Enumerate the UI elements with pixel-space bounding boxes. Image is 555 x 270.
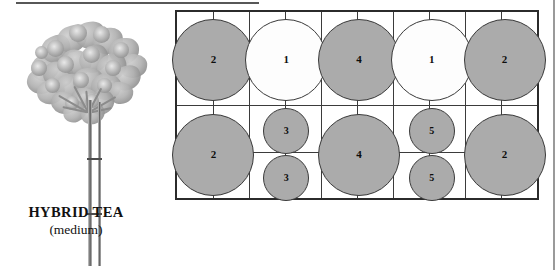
plant-circle-2: 2: [464, 114, 546, 196]
plant-circle-3: 3: [263, 155, 309, 201]
rose-bloom: [93, 26, 110, 43]
plant-circle-1: 1: [245, 19, 327, 101]
grid-line-horizontal: [177, 105, 537, 106]
caption-subtitle: (medium): [0, 222, 152, 238]
header-rule: [16, 2, 259, 4]
rose-bloom: [73, 72, 89, 88]
planting-plan-grid: 214122334552: [175, 10, 539, 200]
plant-circle-4: 4: [318, 19, 400, 101]
rose-bloom: [47, 40, 64, 57]
figure-caption: HYBRID TEA (medium): [0, 204, 152, 238]
rose-bloom: [69, 24, 87, 42]
plant-circle-2: 2: [464, 19, 546, 101]
plant-circle-1: 1: [391, 19, 473, 101]
caption-title: HYBRID TEA: [0, 204, 152, 222]
stem-right: [98, 102, 101, 266]
rose-bloom: [113, 42, 129, 58]
plant-circle-5: 5: [409, 155, 455, 201]
plant-circle-3: 3: [263, 108, 309, 154]
rose-bloom: [31, 60, 47, 76]
rose-bloom: [83, 46, 100, 63]
rose-bloom: [105, 60, 121, 76]
plant-circle-5: 5: [409, 108, 455, 154]
rose-bloom: [35, 46, 48, 59]
planting-plan-inner: 214122334552: [177, 12, 537, 198]
stem-left: [88, 100, 92, 266]
plant-circle-2: 2: [172, 19, 254, 101]
plant-circle-4: 4: [318, 114, 400, 196]
rose-bloom: [57, 56, 74, 73]
plant-circle-2: 2: [172, 114, 254, 196]
rose-bloom: [45, 78, 60, 93]
plant-illustration-panel: HYBRID TEA (medium): [0, 6, 172, 270]
stem-node-upper: [87, 158, 102, 160]
